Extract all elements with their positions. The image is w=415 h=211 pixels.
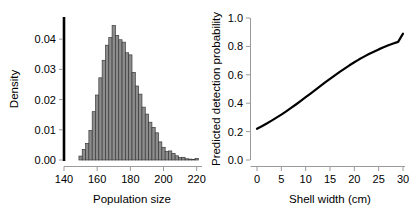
x-tick-label: 25 (373, 173, 385, 185)
histogram-bar (79, 156, 82, 160)
histogram-y-ticks (59, 39, 63, 160)
histogram-bar (112, 26, 115, 160)
y-tick-label: 1.0 (228, 12, 243, 24)
histogram-bar (149, 122, 152, 160)
histogram-bar (125, 53, 128, 160)
line-chart-x-ticks (257, 167, 403, 172)
histogram-bar (139, 94, 142, 160)
histogram-bar (102, 60, 105, 160)
y-tick-label: 0.03 (35, 63, 56, 75)
histogram-y-tick-labels: 0.000.010.020.030.04 (35, 33, 56, 166)
histogram-bar (192, 159, 195, 160)
histogram-bar (165, 152, 168, 160)
histogram-svg: 0.000.010.020.030.04 140160180200220 Den… (0, 0, 207, 211)
y-tick-label: 0.4 (228, 97, 243, 109)
x-tick-label: 15 (324, 173, 336, 185)
x-tick-label: 200 (154, 173, 172, 185)
histogram-bar (86, 143, 89, 160)
panel-histogram: 0.000.010.020.030.04 140160180200220 Den… (0, 0, 207, 211)
y-tick-label: 0.8 (228, 40, 243, 52)
histogram-bar (132, 72, 135, 160)
y-tick-label: 0.04 (35, 33, 56, 45)
histogram-bar (96, 95, 99, 160)
histogram-bar (89, 130, 92, 160)
histogram-bar (99, 78, 102, 160)
x-tick-label: 0 (254, 173, 260, 185)
histogram-bar (129, 55, 132, 160)
x-tick-label: 160 (88, 173, 106, 185)
histogram-bar (185, 159, 188, 160)
histogram-bar (105, 45, 108, 160)
x-tick-label: 10 (300, 173, 312, 185)
histogram-bar (122, 42, 125, 160)
y-tick-label: 0.6 (228, 69, 243, 81)
figure-container: 0.000.010.020.030.04 140160180200220 Den… (0, 0, 415, 211)
line-chart-x-tick-labels: 051015202530 (254, 173, 409, 185)
line-chart-x-axis-title: Shell width (cm) (289, 193, 371, 205)
histogram-bar (135, 86, 138, 160)
histogram-x-axis-title: Population size (93, 193, 171, 205)
histogram-bar (168, 151, 171, 160)
line-chart-y-ticks (246, 18, 250, 160)
histogram-bar (178, 158, 181, 160)
detection-probability-curve (257, 34, 403, 129)
panel-line-chart: 0.00.20.40.60.81.0 051015202530 Predicte… (207, 0, 415, 211)
histogram-bar (82, 149, 85, 160)
histogram-x-tick-labels: 140160180200220 (55, 173, 206, 185)
histogram-bar (155, 133, 158, 160)
histogram-bar (162, 147, 165, 160)
histogram-x-ticks (64, 167, 197, 172)
y-tick-label: 0.00 (35, 154, 56, 166)
line-chart-y-tick-labels: 0.00.20.40.60.81.0 (228, 12, 243, 166)
x-tick-label: 5 (278, 173, 284, 185)
histogram-bar (115, 36, 118, 160)
histogram-bar (145, 114, 148, 160)
histogram-bar (159, 142, 162, 160)
histogram-bars (79, 26, 198, 160)
histogram-bar (175, 156, 178, 160)
y-tick-label: 0.0 (228, 154, 243, 166)
histogram-y-axis-title: Density (8, 70, 20, 109)
y-tick-label: 0.02 (35, 94, 56, 106)
histogram-bar (152, 127, 155, 160)
line-chart-y-axis-title: Predicted detection probability (210, 12, 222, 166)
histogram-bar (119, 40, 122, 160)
histogram-bar (109, 38, 112, 160)
y-tick-label: 0.01 (35, 124, 56, 136)
x-tick-label: 30 (397, 173, 409, 185)
line-chart-svg: 0.00.20.40.60.81.0 051015202530 Predicte… (207, 0, 415, 211)
histogram-bar (182, 157, 185, 160)
x-tick-label: 220 (188, 173, 206, 185)
x-tick-label: 140 (55, 173, 73, 185)
x-tick-label: 180 (121, 173, 139, 185)
histogram-bar (195, 158, 198, 160)
histogram-bar (142, 107, 145, 160)
histogram-bar (188, 159, 191, 160)
histogram-bar (92, 112, 95, 160)
x-tick-label: 20 (348, 173, 360, 185)
y-tick-label: 0.2 (228, 126, 243, 138)
histogram-bar (172, 153, 175, 160)
